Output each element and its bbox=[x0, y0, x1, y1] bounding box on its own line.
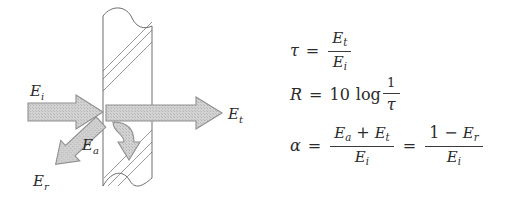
coefficient-ten: 10 bbox=[329, 87, 349, 103]
fraction-bar bbox=[425, 146, 482, 147]
tau-numerator: Et bbox=[328, 30, 351, 49]
one-over-tau-fraction: 1 τ bbox=[383, 76, 400, 114]
diagram-canvas: Ei Er Ea Et bbox=[0, 0, 270, 198]
absorption-coefficient-equation: α = Ea+Et Ei = 1−Er Ei bbox=[290, 124, 485, 168]
label-absorbed-energy: Ea bbox=[81, 136, 99, 156]
equation-list: τ = Et Ei R = 10 log 1 τ α = Ea+E bbox=[282, 24, 516, 184]
label-incident-energy: Ei bbox=[29, 82, 44, 102]
alpha-fraction-right: 1−Er Ei bbox=[425, 124, 482, 168]
fraction-bar bbox=[330, 146, 394, 147]
fraction-bar bbox=[383, 93, 400, 94]
partition-energy-diagram: Ei Er Ea Et bbox=[0, 0, 270, 198]
tau-fraction: Et Ei bbox=[328, 30, 351, 73]
r-symbol: R bbox=[290, 87, 302, 103]
partition-top-break bbox=[103, 8, 152, 28]
tau-denominator: Ei bbox=[329, 54, 351, 73]
log-operator: log bbox=[356, 87, 381, 103]
fraction-bar bbox=[328, 51, 351, 52]
wall-partition bbox=[96, 8, 180, 190]
alpha-fraction-left: Ea+Et Ei bbox=[330, 124, 394, 168]
tau-symbol: τ bbox=[290, 43, 299, 59]
alpha-left-denominator: Ei bbox=[351, 149, 373, 168]
acoustics-energy-figure: Ei Er Ea Et τ = Et Ei R = 10 log 1 bbox=[0, 0, 516, 198]
equals-sign: = bbox=[306, 43, 319, 59]
label-transmitted-energy: Et bbox=[227, 105, 244, 125]
r-denominator: τ bbox=[383, 96, 400, 114]
equals-sign-first: = bbox=[308, 138, 321, 154]
equals-sign-second: = bbox=[403, 138, 416, 154]
label-reflected-energy: Er bbox=[32, 172, 50, 192]
absorbed-energy-arrow bbox=[113, 122, 140, 160]
equals-sign: = bbox=[309, 87, 322, 103]
partition-hatching bbox=[96, 14, 180, 190]
r-numerator: 1 bbox=[383, 76, 399, 91]
alpha-right-numerator: 1−Er bbox=[425, 124, 482, 144]
alpha-right-denominator: Ei bbox=[443, 149, 465, 168]
alpha-symbol: α bbox=[290, 138, 301, 154]
transmission-loss-equation: R = 10 log 1 τ bbox=[290, 76, 402, 114]
transmission-coefficient-equation: τ = Et Ei bbox=[290, 30, 353, 73]
alpha-left-numerator: Ea+Et bbox=[330, 124, 394, 144]
